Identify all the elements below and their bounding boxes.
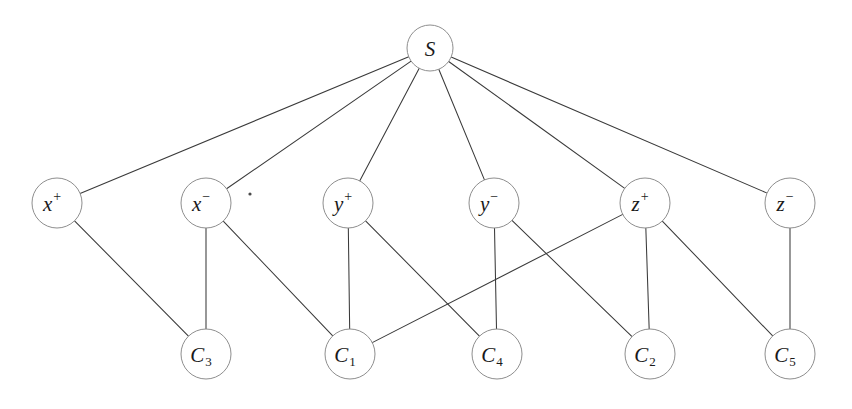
graph-edge-y--C2 [512,220,632,336]
graph-node-x+[interactable]: x+ [32,178,82,228]
graph-node-C3[interactable]: C3 [181,329,231,379]
graph-edge-y+-C1 [348,228,349,329]
graph-edge-S-y- [439,69,485,180]
graph-edge-y+-C4 [366,221,480,336]
graph-edge-S-z- [451,57,767,193]
artifact-layer [248,192,251,195]
graph-edge-S-x- [227,61,412,189]
graph-node-C2[interactable]: C2 [625,329,675,379]
graph-node-C5[interactable]: C5 [765,329,815,379]
graph-node-y+[interactable]: y+ [323,178,373,228]
graph-canvas: Sx+x−y+y−z+z−C3C1C4C2C5 [0,0,852,409]
node-label-S: S [425,37,436,61]
graph-node-z+[interactable]: z+ [620,178,670,228]
graph-edge-S-z+ [449,61,625,188]
graph-edge-y--C4 [495,228,497,329]
graph-node-y-[interactable]: y− [469,178,519,228]
graph-edge-z+-C2 [646,228,649,329]
graph-edge-z+-C1 [372,214,623,342]
graph-edge-S-y+ [360,68,420,181]
scan-speck-artifact [248,192,251,195]
graph-edge-x--C1 [223,221,333,336]
graph-node-z-[interactable]: z− [765,178,815,228]
graph-node-C4[interactable]: C4 [472,329,522,379]
graph-node-C1[interactable]: C1 [325,329,375,379]
graph-node-x-[interactable]: x− [181,178,231,228]
graph-edge-S-x+ [80,57,409,194]
node-layer: Sx+x−y+y−z+z−C3C1C4C2C5 [32,25,815,379]
graph-node-S[interactable]: S [407,25,453,71]
graph-diagram: Sx+x−y+y−z+z−C3C1C4C2C5 [0,0,852,409]
graph-edge-z+-C5 [662,221,772,336]
graph-edge-x+-C3 [75,221,189,336]
